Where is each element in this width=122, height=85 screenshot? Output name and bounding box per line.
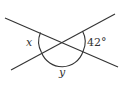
arc-y — [42, 52, 84, 67]
label-42: 42° — [87, 36, 107, 49]
arc-42 — [83, 31, 86, 52]
arc-x — [39, 33, 42, 53]
label-y: y — [58, 66, 66, 79]
angle-diagram: x 42° y — [0, 0, 122, 85]
label-x: x — [26, 36, 33, 49]
